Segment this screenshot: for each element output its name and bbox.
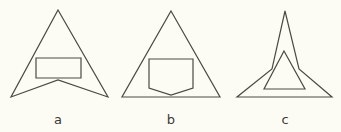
- panel-a-label: a: [54, 112, 62, 127]
- panel-b: b: [122, 11, 220, 127]
- panel-b-outer-triangle: [122, 11, 220, 97]
- panel-b-inner-pentagon: [149, 59, 193, 95]
- figure-canvas: a b c: [0, 0, 341, 132]
- panel-a: a: [11, 10, 108, 127]
- panel-a-outer-shape: [11, 10, 108, 97]
- panel-c-label: c: [281, 112, 288, 127]
- panel-b-label: b: [167, 112, 175, 127]
- panel-a-inner-rectangle: [36, 58, 81, 78]
- panel-c-outer-shape: [237, 11, 332, 97]
- panel-c: c: [237, 11, 332, 127]
